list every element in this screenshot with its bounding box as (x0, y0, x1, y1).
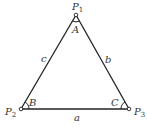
side-label-a: a (74, 112, 80, 123)
angle-label-C: C (111, 97, 119, 108)
side-label-c: c (41, 53, 47, 64)
vertex-P3-marker (127, 107, 131, 111)
vertex-label-P1: P1 (71, 1, 83, 14)
angle-label-A: A (71, 24, 79, 35)
angle-arc-C (121, 102, 125, 109)
vertex-P2-marker (19, 107, 23, 111)
side-b (76, 15, 129, 109)
side-c (21, 15, 76, 109)
vertex-label-P3: P3 (133, 106, 145, 119)
side-label-b: b (105, 54, 111, 65)
vertex-P1-marker (74, 13, 78, 17)
triangle-diagram: P1 P2 P3 A B C a b c (0, 0, 147, 131)
angle-label-B: B (28, 97, 36, 108)
vertex-label-P2: P2 (4, 106, 16, 119)
angle-arc-A (73, 21, 80, 22)
